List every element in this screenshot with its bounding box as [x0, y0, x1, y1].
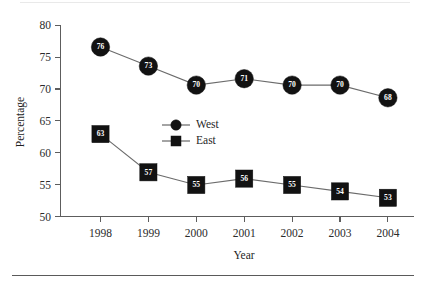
bottom-divider-rule [12, 275, 414, 276]
data-point-label-east: 63 [97, 129, 105, 138]
y-tick-label: 60 [40, 147, 52, 159]
x-tick-label: 2003 [329, 227, 352, 239]
x-tick-label: 1998 [89, 227, 112, 239]
series-markers-west: 76 73 70 71 70 70 68 [91, 38, 397, 107]
x-tick-label: 2004 [376, 227, 399, 239]
data-point-label-west: 71 [240, 74, 248, 83]
line-chart-plot: 50 55 60 65 70 75 80 Percentage 1998 199… [0, 0, 426, 281]
legend-label-east: East [196, 134, 217, 146]
x-tick-label: 1999 [137, 227, 160, 239]
data-point-label-west: 68 [384, 93, 392, 102]
legend-marker-square-icon [171, 136, 181, 146]
data-point-label-east: 57 [145, 168, 153, 177]
figure-container: 50 55 60 65 70 75 80 Percentage 1998 199… [0, 0, 426, 281]
x-axis-ticks [101, 217, 388, 223]
legend-item-east[interactable]: East [162, 134, 217, 146]
x-tick-label: 2002 [281, 227, 304, 239]
y-tick-label: 80 [40, 19, 52, 31]
legend-marker-circle-icon [171, 120, 181, 130]
series-markers-east: 63 57 55 56 55 54 53 [92, 126, 397, 207]
legend-item-west[interactable]: West [162, 118, 220, 130]
data-point-label-west: 70 [288, 80, 296, 89]
data-point-label-east: 55 [288, 180, 296, 189]
y-axis-ticks [55, 25, 61, 216]
y-tick-label: 50 [40, 211, 52, 223]
x-tick-label: 2001 [233, 227, 256, 239]
data-point-label-west: 73 [145, 61, 153, 70]
data-point-label-west: 70 [336, 80, 344, 89]
data-point-label-west: 70 [193, 80, 201, 89]
y-axis-tick-labels: 50 55 60 65 70 75 80 [40, 19, 52, 222]
y-tick-label: 75 [40, 51, 52, 63]
legend-label-west: West [196, 118, 220, 130]
data-point-label-east: 56 [240, 174, 248, 183]
data-point-label-west: 76 [97, 42, 105, 51]
chart-legend: West East [162, 118, 220, 146]
x-tick-label: 2000 [185, 227, 208, 239]
data-point-label-east: 53 [384, 193, 392, 202]
data-point-label-east: 54 [336, 187, 344, 196]
x-axis-tick-labels: 1998 1999 2000 2001 2002 2003 2004 [89, 227, 400, 239]
y-tick-label: 65 [40, 115, 52, 127]
y-tick-label: 70 [40, 83, 52, 95]
x-axis-title: Year [233, 249, 254, 261]
data-point-label-east: 55 [193, 180, 201, 189]
y-axis-title: Percentage [14, 97, 27, 147]
y-tick-label: 55 [40, 179, 52, 191]
